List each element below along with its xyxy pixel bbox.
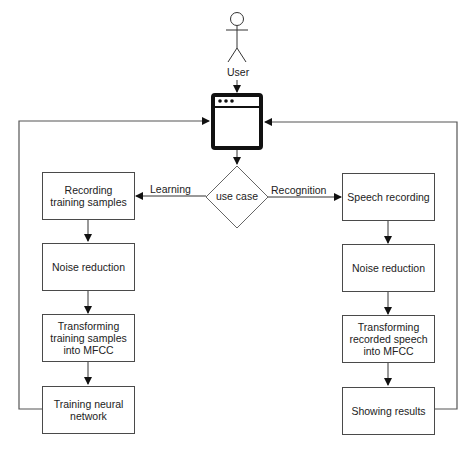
branch-label-learning: Learning xyxy=(150,183,191,195)
decision-label: use case xyxy=(216,190,258,202)
step-recording-training-samples: Recording training samples xyxy=(42,172,135,220)
browser-window-icon xyxy=(213,95,261,148)
actor-label: User xyxy=(227,66,249,78)
step-transform-recorded-mfcc: Transforming recorded speech into MFCC xyxy=(342,315,435,363)
step-training-neural-network: Training neural network xyxy=(42,386,135,434)
stick-figure-icon xyxy=(226,13,248,63)
step-noise-reduction-recognition: Noise reduction xyxy=(342,244,435,292)
branch-label-recognition: Recognition xyxy=(271,184,326,196)
step-noise-reduction-learning: Noise reduction xyxy=(42,243,135,291)
step-transform-training-mfcc: Transforming training samples into MFCC xyxy=(42,314,135,362)
step-showing-results: Showing results xyxy=(342,387,435,435)
step-speech-recording: Speech recording xyxy=(342,173,435,221)
